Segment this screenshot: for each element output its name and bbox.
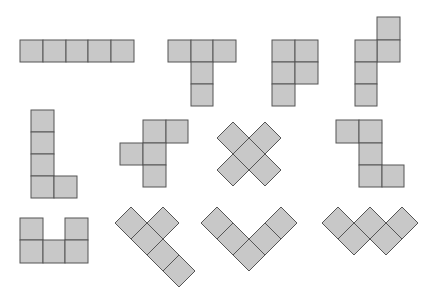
- pentomino-w: [322, 207, 418, 255]
- pentomino-diagram: [0, 0, 435, 302]
- pentomino-v: [201, 207, 297, 271]
- pentomino-u: [20, 218, 88, 263]
- pentomino-n: [355, 17, 400, 106]
- pentomino-p: [272, 40, 318, 106]
- pentomino-l: [31, 110, 77, 198]
- pentomino-x: [217, 122, 281, 186]
- pentomino-f: [120, 120, 188, 187]
- pentomino-t: [168, 40, 236, 106]
- pentomino-z: [336, 120, 404, 187]
- pentomino-y: [115, 207, 195, 287]
- pentomino-i: [20, 40, 134, 62]
